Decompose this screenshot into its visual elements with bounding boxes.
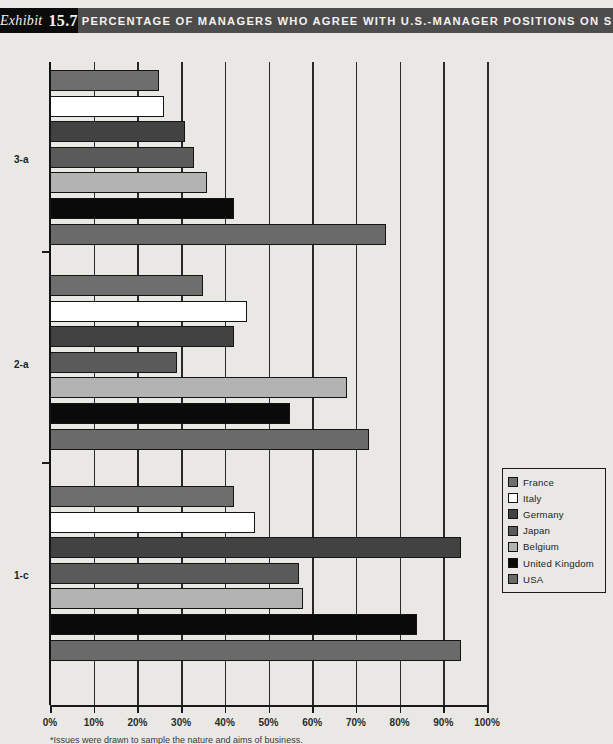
legend-swatch-icon [508, 558, 518, 568]
bar-2-a-italy [50, 301, 247, 322]
legend-item-italy[interactable]: Italy [508, 490, 600, 506]
y-axis-label-3-a: 3-a [14, 154, 28, 165]
bar-3-a-italy [50, 96, 164, 117]
exhibit-header: Exhibit 15.7 PERCENTAGE OF MANAGERS WHO … [0, 8, 613, 33]
x-tick-mark [400, 705, 402, 713]
chart-legend: FranceItalyGermanyJapanBelgiumUnited Kin… [502, 468, 606, 593]
legend-swatch-icon [508, 542, 518, 552]
x-tick-label: 70% [346, 717, 366, 728]
exhibit-label: Exhibit [0, 13, 43, 29]
bar-1-c-united-kingdom [50, 614, 417, 635]
bar-3-a-france [50, 70, 159, 91]
x-tick-label: 60% [302, 717, 322, 728]
legend-label: Germany [523, 509, 564, 520]
x-tick-label: 40% [215, 717, 235, 728]
bar-1-c-belgium [50, 588, 303, 609]
footnote-text: *Issues were drawn to sample the nature … [50, 735, 303, 744]
x-tick-mark [312, 705, 314, 713]
x-tick-label: 10% [84, 717, 104, 728]
x-tick-mark [94, 705, 96, 713]
bar-2-a-japan [50, 352, 177, 373]
x-tick-label: 30% [171, 717, 191, 728]
legend-swatch-icon [508, 574, 518, 584]
gridline [400, 62, 402, 705]
x-tick-mark [181, 705, 183, 713]
bar-2-a-united-kingdom [50, 403, 290, 424]
gridline [356, 62, 358, 705]
legend-item-germany[interactable]: Germany [508, 506, 600, 522]
exhibit-number: 15.7 [49, 12, 78, 30]
legend-swatch-icon [508, 477, 518, 487]
legend-item-usa[interactable]: USA [508, 571, 600, 587]
x-tick-mark [356, 705, 358, 713]
y-axis-group-tick [42, 462, 51, 464]
x-tick-mark [137, 705, 139, 713]
x-tick-mark [50, 705, 52, 713]
bar-1-c-usa [50, 640, 461, 661]
gridline [443, 62, 445, 705]
legend-label: United Kingdom [523, 558, 594, 569]
x-tick-mark [225, 705, 227, 713]
legend-item-japan[interactable]: Japan [508, 523, 600, 539]
x-tick-label: 80% [390, 717, 410, 728]
x-tick-mark [269, 705, 271, 713]
bar-3-a-japan [50, 147, 194, 168]
legend-swatch-icon [508, 509, 518, 519]
legend-swatch-icon [508, 526, 518, 536]
legend-label: France [523, 477, 554, 488]
y-axis-group-tick [42, 251, 51, 253]
bar-2-a-belgium [50, 377, 347, 398]
x-tick-label: 90% [433, 717, 453, 728]
x-tick-label: 20% [127, 717, 147, 728]
x-tick-label: 100% [474, 717, 500, 728]
bar-3-a-germany [50, 121, 185, 142]
y-axis-label-2-a: 2-a [14, 359, 28, 370]
legend-item-united-kingdom[interactable]: United Kingdom [508, 555, 600, 571]
legend-item-belgium[interactable]: Belgium [508, 539, 600, 555]
bar-1-c-japan [50, 563, 299, 584]
x-tick-mark [443, 705, 445, 713]
x-tick-label: 50% [258, 717, 278, 728]
legend-item-france[interactable]: France [508, 474, 600, 490]
bar-3-a-belgium [50, 172, 207, 193]
legend-label: USA [523, 574, 543, 585]
bar-1-c-italy [50, 512, 255, 533]
bar-2-a-france [50, 275, 203, 296]
bar-2-a-usa [50, 429, 369, 450]
legend-label: Italy [523, 493, 542, 504]
chart-title: PERCENTAGE OF MANAGERS WHO AGREE WITH U.… [78, 8, 613, 33]
bar-3-a-usa [50, 224, 386, 245]
y-axis-label-1-c: 1-c [14, 570, 28, 581]
legend-label: Japan [523, 525, 550, 536]
exhibit-badge: Exhibit 15.7 [0, 8, 78, 33]
gridline [487, 62, 489, 705]
bar-1-c-france [50, 486, 234, 507]
x-tick-mark [487, 705, 489, 713]
legend-label: Belgium [523, 541, 559, 552]
bar-3-a-united-kingdom [50, 198, 234, 219]
bar-2-a-germany [50, 326, 234, 347]
legend-swatch-icon [508, 493, 518, 503]
chart-plot-area: 0%10%20%30%40%50%60%70%80%90%100% 3-a2-a… [50, 62, 487, 705]
x-tick-label: 0% [43, 717, 57, 728]
bar-1-c-germany [50, 537, 461, 558]
